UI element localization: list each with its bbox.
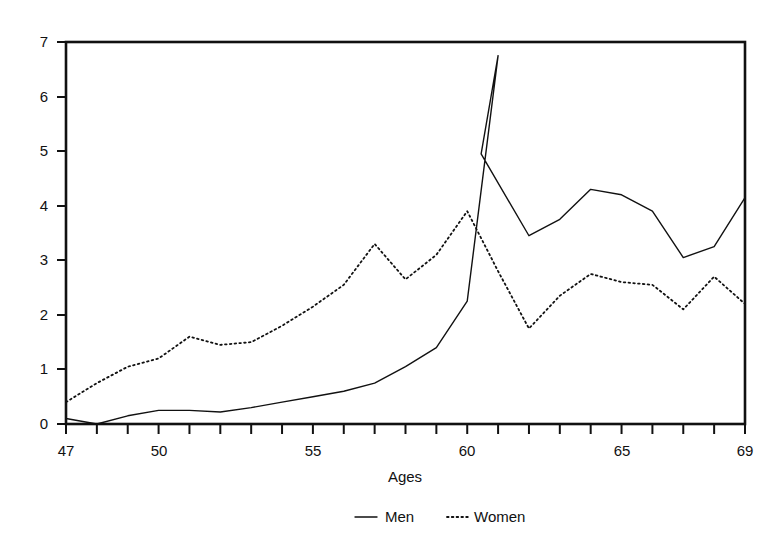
y-tick-label: 7 xyxy=(40,33,48,50)
y-tick-label: 4 xyxy=(40,197,48,214)
x-tick-label: 50 xyxy=(151,442,168,459)
x-tick-label: 55 xyxy=(305,442,322,459)
y-tick-group-5: 5 xyxy=(40,142,66,159)
x-axis-labels: 47 50 55 60 65 69 xyxy=(58,442,754,459)
line-chart: 0 1 2 3 4 5 6 xyxy=(0,0,777,549)
y-tick-label: 6 xyxy=(40,88,48,105)
legend-label-women: Women xyxy=(474,508,525,525)
legend-label-men: Men xyxy=(385,508,414,525)
y-tick-label: 0 xyxy=(40,415,48,432)
y-axis: 0 1 2 3 4 5 6 xyxy=(40,33,66,432)
y-tick-label: 1 xyxy=(40,360,48,377)
x-tick-label: 60 xyxy=(459,442,476,459)
chart-legend: Men Women xyxy=(355,508,525,525)
x-tick-label: 65 xyxy=(614,442,631,459)
y-tick-label: 5 xyxy=(40,142,48,159)
x-axis-ticks xyxy=(66,424,745,434)
y-tick-group-4: 4 xyxy=(40,197,66,214)
y-tick-group-6: 6 xyxy=(40,88,66,105)
y-tick-group-0: 0 xyxy=(40,415,66,432)
y-tick-group-3: 3 xyxy=(40,251,66,268)
chart-figure: 0 1 2 3 4 5 6 xyxy=(0,0,777,549)
x-axis-title: Ages xyxy=(388,468,422,485)
y-tick-group-1: 1 xyxy=(40,360,66,377)
y-tick-label: 3 xyxy=(40,251,48,268)
y-tick-group-7: 7 xyxy=(40,33,66,50)
y-tick-label: 2 xyxy=(40,306,48,323)
series-line-men xyxy=(66,56,745,424)
x-tick-label: 47 xyxy=(58,442,75,459)
y-tick-group-2: 2 xyxy=(40,306,66,323)
x-tick-label: 69 xyxy=(737,442,754,459)
series-line-women xyxy=(66,211,745,402)
